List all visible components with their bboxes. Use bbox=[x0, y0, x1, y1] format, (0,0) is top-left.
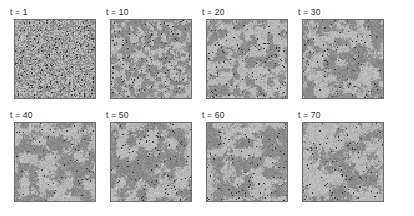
panel-label-t40: t = 40 bbox=[10, 109, 33, 121]
panel-t40: t = 40 bbox=[10, 109, 106, 213]
snapshot-grid: t = 1 t = 10 t = 20 t = 30 t = 40 bbox=[0, 0, 414, 216]
panel-label-t30: t = 30 bbox=[298, 6, 321, 18]
panel-label-t50: t = 50 bbox=[106, 109, 129, 121]
panel-t60: t = 60 bbox=[202, 109, 298, 213]
lattice-image-t50 bbox=[110, 122, 192, 202]
panel-t30: t = 30 bbox=[298, 6, 394, 110]
panel-t50: t = 50 bbox=[106, 109, 202, 213]
panel-t20: t = 20 bbox=[202, 6, 298, 110]
lattice-image-t30 bbox=[302, 19, 384, 99]
panel-label-t10: t = 10 bbox=[106, 6, 129, 18]
panel-t70: t = 70 bbox=[298, 109, 394, 213]
lattice-image-t60 bbox=[206, 122, 288, 202]
lattice-image-t70 bbox=[302, 122, 384, 202]
lattice-image-t1 bbox=[14, 19, 96, 99]
panel-label-t60: t = 60 bbox=[202, 109, 225, 121]
lattice-image-t20 bbox=[206, 19, 288, 99]
panel-t10: t = 10 bbox=[106, 6, 202, 110]
lattice-image-t10 bbox=[110, 19, 192, 99]
panel-label-t1: t = 1 bbox=[10, 6, 28, 18]
panel-t1: t = 1 bbox=[10, 6, 106, 110]
figure-panel-grid: t = 1 t = 10 t = 20 t = 30 t = 40 bbox=[0, 0, 414, 216]
lattice-image-t40 bbox=[14, 122, 96, 202]
panel-label-t20: t = 20 bbox=[202, 6, 225, 18]
panel-label-t70: t = 70 bbox=[298, 109, 321, 121]
